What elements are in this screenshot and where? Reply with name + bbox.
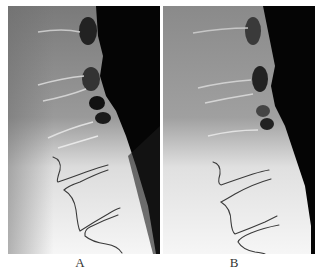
panel-label-b: B [224,255,244,271]
xray-panel-a [8,6,160,254]
xray-panel-b [163,6,315,254]
panel-label-a: A [70,255,90,271]
xray-image-b [163,6,315,254]
xray-image-a [8,6,160,254]
